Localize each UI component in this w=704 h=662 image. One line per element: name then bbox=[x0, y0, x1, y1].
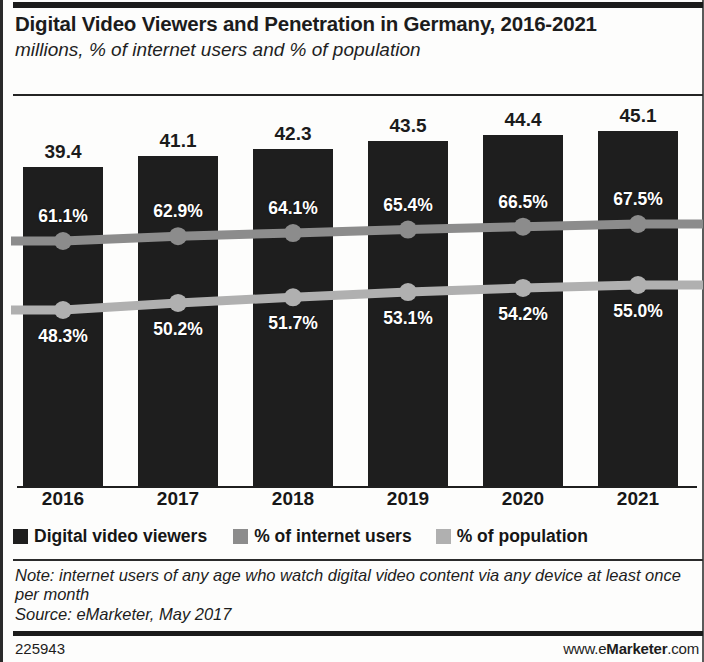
source-text: Source: eMarketer, May 2017 bbox=[15, 605, 701, 624]
legend-item-3[interactable]: % of population bbox=[436, 526, 588, 547]
note-text: Note: internet users of any age who watc… bbox=[15, 566, 701, 604]
x-tick-2021: 2021 bbox=[617, 488, 659, 510]
legend-label: % of internet users bbox=[254, 526, 412, 547]
url-prefix: www.e bbox=[563, 640, 606, 657]
percent-label-population-2018: 51.7% bbox=[268, 313, 318, 334]
bar-value-label: 44.4 bbox=[505, 109, 542, 131]
percent-label-population-2021: 55.0% bbox=[613, 301, 663, 322]
bar-value-label: 45.1 bbox=[620, 105, 657, 127]
footer-divider-top bbox=[13, 559, 703, 561]
chart-title: Digital Video Viewers and Penetration in… bbox=[15, 12, 695, 35]
percent-label-internet-users-2020: 66.5% bbox=[498, 192, 548, 213]
bar-value-label: 42.3 bbox=[275, 123, 312, 145]
percent-label-internet-users-2018: 64.1% bbox=[268, 198, 318, 219]
emarketer-url[interactable]: www.eMarketer.com bbox=[563, 640, 699, 657]
chart-id: 225943 bbox=[15, 640, 65, 657]
top-rule bbox=[13, 2, 703, 8]
plot-area: 39.441.142.343.544.445.1 61.1%62.9%64.1%… bbox=[3, 100, 704, 492]
footer-divider-bottom bbox=[13, 631, 703, 636]
chart-card: Digital Video Viewers and Penetration in… bbox=[0, 0, 704, 662]
legend-label: Digital video viewers bbox=[34, 526, 207, 547]
legend-item-2[interactable]: % of internet users bbox=[233, 526, 412, 547]
chart-subtitle: millions, % of internet users and % of p… bbox=[15, 39, 695, 61]
chart-legend: Digital video viewers% of internet users… bbox=[13, 523, 703, 549]
footer-meta: 225943 www.eMarketer.com bbox=[15, 640, 699, 657]
x-tick-2020: 2020 bbox=[502, 488, 544, 510]
legend-item-1[interactable]: Digital video viewers bbox=[13, 526, 207, 547]
percent-label-population-2016: 48.3% bbox=[38, 326, 88, 347]
x-tick-2018: 2018 bbox=[272, 488, 314, 510]
legend-swatch-icon bbox=[13, 529, 28, 544]
bar-value-label: 41.1 bbox=[160, 130, 197, 152]
bar-value-label: 39.4 bbox=[45, 141, 82, 163]
percent-label-population-2020: 54.2% bbox=[498, 304, 548, 325]
chart-header: Digital Video Viewers and Penetration in… bbox=[15, 12, 695, 61]
percent-label-internet-users-2019: 65.4% bbox=[383, 195, 433, 216]
percent-label-internet-users-2021: 67.5% bbox=[613, 189, 663, 210]
percent-label-population-2017: 50.2% bbox=[153, 319, 203, 340]
x-tick-2017: 2017 bbox=[157, 488, 199, 510]
legend-swatch-icon bbox=[436, 529, 451, 544]
x-axis-labels: 201620172018201920202021 bbox=[3, 488, 704, 520]
footnotes: Note: internet users of any age who watc… bbox=[15, 566, 701, 624]
percent-label-internet-users-2016: 61.1% bbox=[38, 206, 88, 227]
header-divider bbox=[13, 94, 703, 96]
legend-swatch-icon bbox=[233, 529, 248, 544]
url-suffix: .com bbox=[667, 640, 699, 657]
percent-label-internet-users-2017: 62.9% bbox=[153, 201, 203, 222]
percent-label-population-2019: 53.1% bbox=[383, 308, 433, 329]
bar-value-label: 43.5 bbox=[390, 115, 427, 137]
x-tick-2019: 2019 bbox=[387, 488, 429, 510]
url-brand: Marketer bbox=[606, 640, 667, 657]
legend-label: % of population bbox=[457, 526, 588, 547]
x-tick-2016: 2016 bbox=[42, 488, 84, 510]
